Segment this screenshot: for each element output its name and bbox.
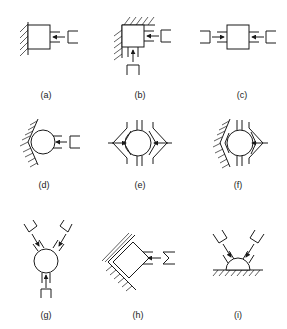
label-g: (g) (41, 310, 52, 320)
label-a: (a) (41, 90, 52, 100)
label-i: (i) (234, 310, 242, 320)
label-c: (c) (237, 90, 248, 100)
panel-d: (d) (20, 119, 80, 190)
panel-c: (c) (200, 25, 276, 100)
panel-a: (a) (20, 22, 78, 100)
panel-i: (i) (213, 230, 264, 320)
fixture-diagram: (a) (b) (c) (0, 0, 287, 329)
panel-f: (f) (213, 119, 268, 190)
panel-e: (e) (108, 120, 172, 190)
label-b: (b) (135, 90, 146, 100)
label-d: (d) (39, 180, 50, 190)
label-f: (f) (234, 180, 243, 190)
panel-g: (g) (24, 220, 72, 320)
label-h: (h) (133, 310, 144, 320)
panel-h: (h) (102, 233, 175, 320)
label-e: (e) (135, 180, 146, 190)
panel-b: (b) (114, 17, 171, 100)
